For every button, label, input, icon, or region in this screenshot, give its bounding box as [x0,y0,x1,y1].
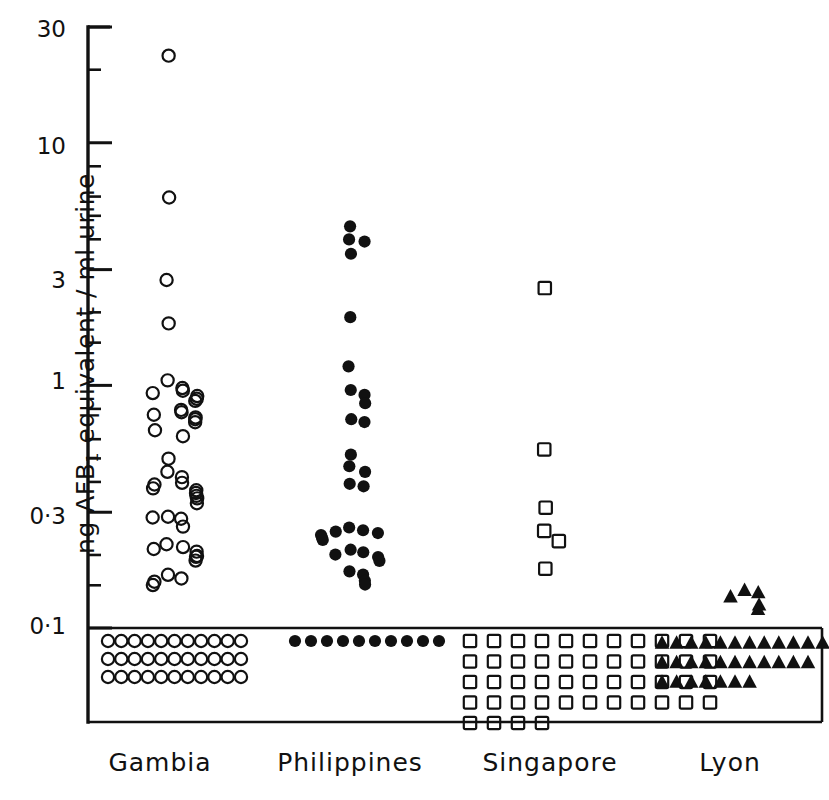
data-point-philippines [357,546,369,558]
data-point-gambia [175,572,187,584]
data-point-philippines [345,384,357,396]
below-limit-point-gambia [129,653,141,665]
below-limit-point-lyon [772,655,787,668]
below-limit-point-lyon [669,635,684,648]
below-limit-point-singapore [512,676,524,688]
data-point-singapore [539,562,551,574]
data-point-gambia [162,453,174,465]
below-limit-point-singapore [488,676,500,688]
data-point-singapore [553,535,565,547]
below-limit-point-singapore [656,696,668,708]
below-limit-point-lyon [655,655,670,668]
data-point-gambia [177,521,189,533]
data-point-gambia [163,317,175,329]
below-limit-point-singapore [488,655,500,667]
below-limit-point-singapore [680,696,692,708]
data-point-philippines [345,248,357,260]
below-limit-point-singapore [608,696,620,708]
data-point-philippines [343,521,355,533]
data-point-philippines [343,565,355,577]
below-limit-point-gambia [208,671,220,683]
data-point-philippines [345,413,357,425]
below-limit-point-lyon [728,655,743,668]
data-point-philippines [358,235,370,247]
below-limit-point-singapore [488,635,500,647]
data-point-gambia [177,430,189,442]
below-limit-point-lyon [728,674,743,687]
below-limit-point-gambia [142,671,154,683]
data-point-philippines [357,524,369,536]
below-limit-point-lyon [699,655,714,668]
below-limit-point-singapore [536,655,548,667]
below-limit-point-lyon [815,635,829,648]
below-limit-point-gambia [102,671,114,683]
data-point-gambia [162,374,174,386]
below-limit-point-gambia [208,635,220,647]
below-limit-point-singapore [608,655,620,667]
below-limit-point-gambia [222,653,234,665]
data-point-philippines [359,578,371,590]
below-limit-point-singapore [512,655,524,667]
data-point-gambia [148,409,160,421]
data-point-lyon [737,583,752,596]
below-limit-point-philippines [337,635,349,647]
data-point-gambia [162,511,174,523]
below-limit-point-singapore [584,696,596,708]
below-limit-point-philippines [385,635,397,647]
below-limit-point-gambia [182,653,194,665]
data-point-singapore [538,525,550,537]
below-limit-point-philippines [353,635,365,647]
data-point-gambia [160,274,172,286]
below-limit-point-lyon [699,635,714,648]
data-point-philippines [357,480,369,492]
below-limit-point-philippines [433,635,445,647]
data-point-philippines [345,449,357,461]
data-point-singapore [539,502,551,514]
data-point-lyon [751,585,766,598]
below-limit-point-lyon [786,655,801,668]
data-point-gambia [148,543,160,555]
below-limit-point-lyon [728,635,743,648]
below-limit-point-singapore [464,635,476,647]
below-limit-point-gambia [115,653,127,665]
below-limit-point-philippines [305,635,317,647]
below-limit-point-gambia [168,671,180,683]
data-point-philippines [345,544,357,556]
below-limit-point-lyon [801,635,816,648]
below-limit-point-singapore [536,676,548,688]
below-limit-point-singapore [464,655,476,667]
data-point-lyon [723,589,738,602]
below-limit-point-gambia [208,653,220,665]
below-limit-point-singapore [632,696,644,708]
data-point-singapore [538,443,550,455]
below-limit-point-lyon [669,655,684,668]
below-limit-point-gambia [168,653,180,665]
data-point-gambia [177,541,189,553]
below-limit-point-singapore [512,635,524,647]
below-limit-point-philippines [289,635,301,647]
data-point-gambia [161,466,173,478]
data-point-philippines [329,548,341,560]
data-point-philippines [343,233,355,245]
data-point-philippines [342,360,354,372]
below-limit-point-lyon [757,635,772,648]
below-limit-point-singapore [608,635,620,647]
data-point-gambia [163,50,175,62]
below-limit-point-philippines [417,635,429,647]
below-limit-point-gambia [195,635,207,647]
below-limit-point-lyon [684,635,699,648]
below-limit-point-gambia [155,635,167,647]
below-limit-point-gambia [115,635,127,647]
below-limit-point-singapore [584,655,596,667]
below-limit-point-singapore [704,696,716,708]
below-limit-point-philippines [369,635,381,647]
below-limit-point-gambia [115,671,127,683]
below-limit-point-gambia [155,653,167,665]
below-limit-point-singapore [560,676,572,688]
below-limit-point-singapore [632,635,644,647]
below-limit-point-singapore [584,676,596,688]
data-point-philippines [344,478,356,490]
data-point-philippines [372,527,384,539]
data-point-philippines [359,397,371,409]
data-point-gambia [149,424,161,436]
